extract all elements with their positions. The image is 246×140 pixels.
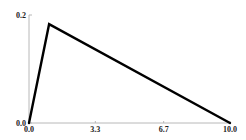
triangle-density-chart: 0.03.36.710.00.00.2 — [0, 0, 246, 140]
x-tick-label: 6.7 — [159, 125, 169, 134]
x-tick-label: 10.0 — [223, 125, 237, 134]
y-tick-label: 0.2 — [16, 11, 26, 20]
series — [29, 24, 230, 123]
x-tick-label: 3.3 — [90, 125, 100, 134]
density-line — [29, 24, 230, 123]
y-tick-label: 0.0 — [16, 119, 26, 128]
